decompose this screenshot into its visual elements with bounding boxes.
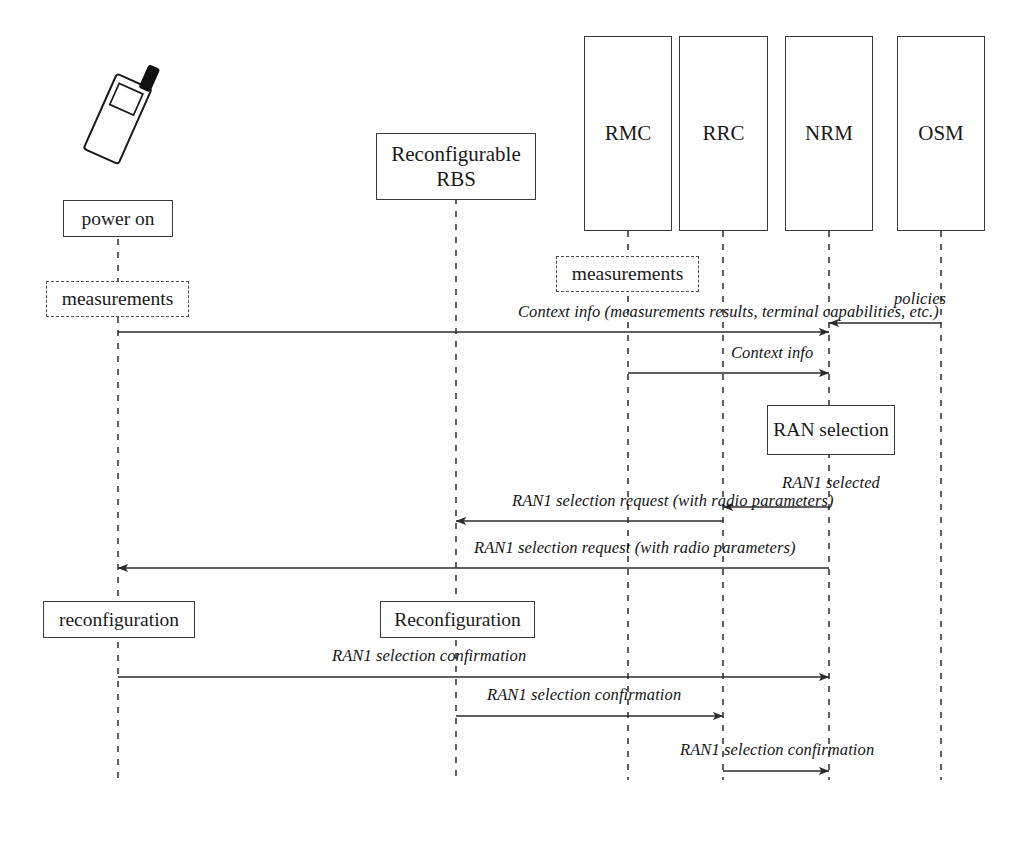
message-label-ran1-confirmation-nrm: RAN1 selection confirmation xyxy=(332,646,526,666)
actor-label-line1: Reconfigurable xyxy=(391,142,520,167)
actor-label-rrc: RRC xyxy=(702,121,744,146)
state-label: measurements xyxy=(572,263,684,285)
actor-label-line2: RBS xyxy=(436,167,476,192)
state-box-ran-selection[interactable]: RAN selection xyxy=(767,405,895,455)
message-label-ran1-selection-request-rbs: RAN1 selection request (with radio param… xyxy=(512,491,834,511)
state-label: measurements xyxy=(62,288,174,310)
state-label: RAN selection xyxy=(773,419,888,441)
mobile-handset-icon xyxy=(84,55,161,165)
actor-label-rmc: RMC xyxy=(605,121,652,146)
message-label-ran1-confirmation-rrc: RAN1 selection confirmation xyxy=(487,685,681,705)
state-box-reconfiguration-terminal[interactable]: reconfiguration xyxy=(43,601,195,638)
actor-box-rmc[interactable]: RMC xyxy=(584,36,672,231)
message-label-context-info-full: Context info (measurements results, term… xyxy=(518,302,939,322)
actor-box-reconfigurable-rbs[interactable]: Reconfigurable RBS xyxy=(376,133,536,200)
state-label: power on xyxy=(81,208,154,230)
state-box-measurements-terminal[interactable]: measurements xyxy=(46,281,189,317)
state-box-power-on[interactable]: power on xyxy=(63,200,173,237)
state-label: reconfiguration xyxy=(59,609,179,631)
message-label-ran1-selected: RAN1 selected xyxy=(782,473,880,493)
state-box-reconfiguration-rbs[interactable]: Reconfiguration xyxy=(380,601,535,638)
sequence-diagram-canvas: Reconfigurable RBS RMC RRC NRM OSM power… xyxy=(0,0,1026,850)
actor-box-nrm[interactable]: NRM xyxy=(785,36,873,231)
actor-box-rrc[interactable]: RRC xyxy=(679,36,768,231)
actor-label-osm: OSM xyxy=(918,121,964,146)
actor-box-osm[interactable]: OSM xyxy=(897,36,985,231)
message-label-ran1-selection-request-terminal: RAN1 selection request (with radio param… xyxy=(474,538,796,558)
actor-label-nrm: NRM xyxy=(805,121,853,146)
message-label-policies: policies xyxy=(894,289,946,309)
state-box-measurements-rmc[interactable]: measurements xyxy=(556,256,699,292)
state-label: Reconfiguration xyxy=(394,609,521,631)
message-label-ran1-confirmation-nrm2: RAN1 selection confirmation xyxy=(680,740,874,760)
message-label-context-info: Context info xyxy=(731,343,813,363)
